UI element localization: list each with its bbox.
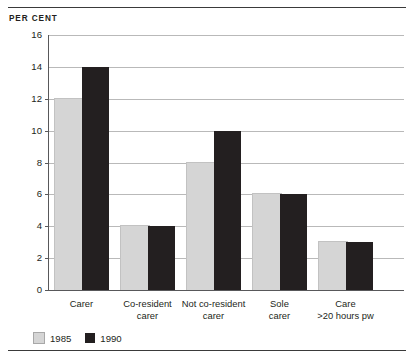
legend-label-1990: 1990 (100, 333, 121, 344)
y-axis-label-0: 0 (6, 285, 42, 295)
legend-item-1990[interactable]: 1990 (85, 333, 121, 344)
plot-area (48, 35, 404, 290)
bar-1985-sole-carer (252, 193, 282, 290)
chart-legend: 19851990 (33, 332, 122, 344)
x-axis-label-line: Care (301, 298, 391, 310)
bar-chart-figure: PER CENT 0246810121416 CarerCo-residentc… (0, 0, 415, 358)
y-axis-label-6: 6 (6, 189, 42, 199)
x-axis-label-group-5: Care>20 hours pw (301, 298, 391, 321)
y-axis-label-2: 2 (6, 253, 42, 263)
bar-1990-care-20-hours-pw (346, 242, 374, 290)
legend-swatch-1985 (33, 332, 45, 344)
y-axis-label-10: 10 (6, 126, 42, 136)
y-axis-unit-label: PER CENT (9, 14, 58, 23)
top-divider-rule (8, 7, 406, 8)
bar-1990-carer (82, 67, 110, 290)
x-axis-line (48, 290, 404, 291)
y-axis-label-8: 8 (6, 158, 42, 168)
y-axis-label-12: 12 (6, 94, 42, 104)
bar-1990-not-co-resident-carer (214, 131, 242, 290)
y-axis-label-16: 16 (6, 30, 42, 40)
y-axis-label-4: 4 (6, 221, 42, 231)
gridline-16 (48, 35, 404, 36)
x-axis-label-line: >20 hours pw (301, 310, 391, 322)
legend-swatch-1990 (85, 333, 95, 343)
bar-1985-care-20-hours-pw (318, 241, 348, 290)
bottom-divider-rule (8, 350, 406, 351)
y-axis-label-14: 14 (6, 62, 42, 72)
bar-1985-carer (54, 98, 84, 290)
bar-1990-co-resident-carer (148, 226, 176, 290)
legend-label-1985: 1985 (50, 333, 71, 344)
bar-1985-co-resident-carer (120, 225, 150, 290)
legend-item-1985[interactable]: 1985 (33, 332, 71, 344)
bar-1985-not-co-resident-carer (186, 162, 216, 291)
bar-1990-sole-carer (280, 194, 308, 290)
y-axis-line (48, 35, 49, 291)
